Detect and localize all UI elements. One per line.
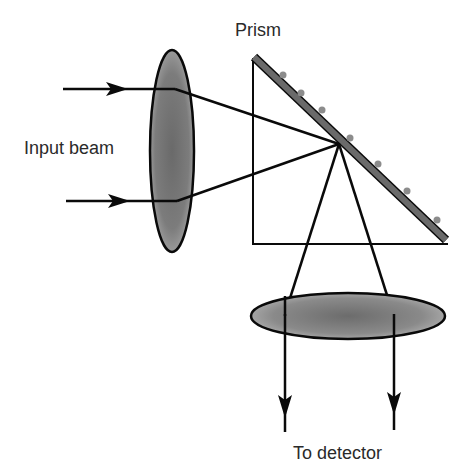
output-arrow-icons [278, 392, 401, 418]
input-lens [150, 50, 194, 252]
output-lens [251, 293, 445, 339]
prism [253, 57, 448, 244]
diagram-canvas [0, 0, 471, 472]
detector-label: To detector [293, 444, 382, 462]
optical-diagram: Prism Input beam To detector [0, 0, 471, 472]
surface-particles [280, 72, 441, 224]
prism-label: Prism [235, 21, 281, 39]
input-beam-label: Input beam [24, 139, 114, 157]
